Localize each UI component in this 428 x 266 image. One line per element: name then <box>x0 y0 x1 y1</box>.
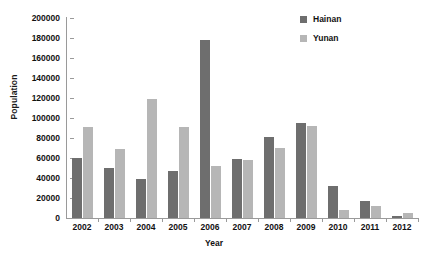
legend-label: Yunan <box>313 33 339 43</box>
x-axis-tick-mark <box>418 218 419 222</box>
y-axis-tick-label: 120000 <box>8 94 60 102</box>
bar-group <box>98 18 130 218</box>
legend-swatch-icon <box>300 16 307 23</box>
population-bar-chart: Population 02000040000600008000010000012… <box>0 0 428 266</box>
bar-group <box>354 18 386 218</box>
bar-yunan-2011 <box>371 206 381 218</box>
y-axis-tick-label: 200000 <box>8 14 60 22</box>
bar-hainan-2009 <box>296 123 306 218</box>
x-axis-tick-label: 2002 <box>66 222 98 232</box>
bar-hainan-2007 <box>232 159 242 218</box>
bar-hainan-2010 <box>328 186 338 218</box>
x-axis-tick-label: 2003 <box>98 222 130 232</box>
bar-hainan-2008 <box>264 137 274 218</box>
x-axis-tick-label: 2006 <box>194 222 226 232</box>
bar-yunan-2007 <box>243 160 253 218</box>
bar-hainan-2012 <box>392 216 402 218</box>
bar-yunan-2004 <box>147 99 157 218</box>
legend-swatch-icon <box>300 35 307 42</box>
y-axis-tick-label: 100000 <box>8 114 60 122</box>
y-axis-tick-label: 0 <box>8 214 60 222</box>
x-axis-title: Year <box>0 238 428 248</box>
bar-hainan-2004 <box>136 179 146 218</box>
bar-yunan-2002 <box>83 127 93 218</box>
x-axis-tick-label: 2007 <box>226 222 258 232</box>
bar-group <box>130 18 162 218</box>
bar-group <box>226 18 258 218</box>
x-axis-tick-label: 2011 <box>354 222 386 232</box>
bar-hainan-2006 <box>200 40 210 218</box>
bar-yunan-2010 <box>339 210 349 218</box>
legend-label: Hainan <box>313 14 341 24</box>
bar-yunan-2003 <box>115 149 125 218</box>
y-axis-tick-label: 40000 <box>8 174 60 182</box>
x-axis-tick-label: 2009 <box>290 222 322 232</box>
x-axis-tick-label: 2005 <box>162 222 194 232</box>
y-axis-tick-label: 80000 <box>8 134 60 142</box>
x-axis-tick-label: 2008 <box>258 222 290 232</box>
bar-yunan-2012 <box>403 213 413 218</box>
x-axis-tick-label: 2010 <box>322 222 354 232</box>
x-axis-tick-label: 2004 <box>130 222 162 232</box>
legend-item-hainan[interactable]: Hainan <box>300 14 341 24</box>
y-axis-tick-label: 180000 <box>8 34 60 42</box>
bar-group <box>194 18 226 218</box>
y-axis-tick-label: 60000 <box>8 154 60 162</box>
y-axis-tick-label: 20000 <box>8 194 60 202</box>
bar-hainan-2003 <box>104 168 114 218</box>
x-axis-tick-label: 2012 <box>386 222 418 232</box>
y-axis-tick-label: 140000 <box>8 74 60 82</box>
bar-group <box>66 18 98 218</box>
bar-hainan-2002 <box>72 158 82 218</box>
bar-group <box>258 18 290 218</box>
bar-yunan-2008 <box>275 148 285 218</box>
bar-hainan-2011 <box>360 201 370 218</box>
bar-group <box>386 18 418 218</box>
bar-yunan-2006 <box>211 166 221 218</box>
plot-area <box>66 18 418 218</box>
chart-legend: HainanYunan <box>300 14 341 52</box>
x-axis-line <box>66 218 419 219</box>
bar-yunan-2009 <box>307 126 317 218</box>
bar-group <box>162 18 194 218</box>
legend-item-yunan[interactable]: Yunan <box>300 33 341 43</box>
y-axis-tick-labels: 0200004000060000800001000001200001400001… <box>8 0 60 266</box>
x-axis-tick-labels: 2002200320042005200620072008200920102011… <box>66 222 418 238</box>
y-axis-tick-label: 160000 <box>8 54 60 62</box>
bar-yunan-2005 <box>179 127 189 218</box>
bar-hainan-2005 <box>168 171 178 218</box>
